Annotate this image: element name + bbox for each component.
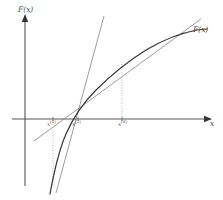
newton-method-figure: F(x) F(x) x x(1) x(2) x(0) [0, 0, 223, 200]
tick-label-x-iterate-2: x(2) [72, 122, 81, 128]
plot-canvas [0, 0, 223, 200]
tangent-line-at-x1 [56, 16, 104, 193]
y-axis-arrow-icon [22, 14, 28, 22]
function-curve [50, 29, 207, 194]
x-axis [12, 116, 212, 122]
tick-label-x1-superscript: (1) [50, 119, 56, 124]
y-axis-label: F(x) [18, 6, 33, 14]
tick-label-x0-superscript: (0) [121, 119, 127, 124]
x-axis-label: x [210, 120, 214, 128]
curve-label: F(x) [193, 26, 208, 34]
tick-label-x-iterate-0: x(0) [118, 122, 127, 128]
y-axis [22, 14, 28, 186]
tick-label-x2-superscript: (2) [75, 119, 81, 124]
tick-label-x-iterate-1: x(1) [47, 122, 56, 128]
